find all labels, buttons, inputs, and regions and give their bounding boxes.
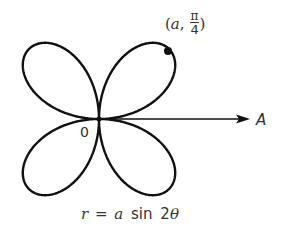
point-label-a: a bbox=[171, 15, 180, 33]
point-label-comma: , bbox=[180, 15, 185, 33]
caption-eq: = bbox=[95, 205, 108, 223]
origin-label: 0 bbox=[80, 124, 89, 140]
caption-sin: sin bbox=[131, 205, 153, 223]
point-label-close: ) bbox=[199, 15, 205, 33]
caption-two: 2 bbox=[160, 205, 170, 223]
axis-label: A bbox=[256, 111, 266, 129]
point-label: ( a , π 4 ) bbox=[165, 10, 205, 37]
origin-point bbox=[97, 117, 102, 122]
caption-r: r bbox=[81, 205, 88, 223]
caption-theta: θ bbox=[170, 205, 179, 223]
caption-a: a bbox=[114, 205, 123, 223]
fraction: π 4 bbox=[190, 10, 200, 37]
curve-equation-caption: r = a sin 2θ bbox=[81, 205, 179, 223]
fraction-denominator: 4 bbox=[190, 23, 198, 37]
marked-point-dot bbox=[164, 47, 172, 55]
